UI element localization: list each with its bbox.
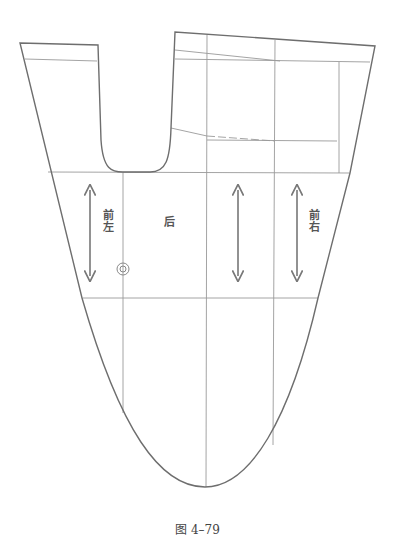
figure-caption: 图 4–79 [0, 520, 395, 537]
pattern-diagram [0, 0, 395, 554]
pattern-outline [20, 32, 375, 487]
label-front-right: 前右 [307, 209, 320, 233]
label-front-left: 前左 [101, 209, 114, 233]
label-back: 后 [162, 216, 175, 228]
grid-lines [25, 35, 370, 487]
